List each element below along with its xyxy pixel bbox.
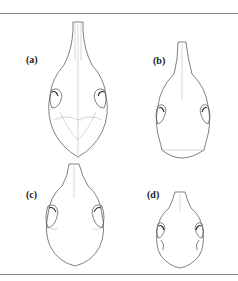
- panel-c-label: (c): [26, 189, 37, 200]
- skull-d-illustration: [153, 190, 207, 270]
- figure-bottom-rule: [0, 274, 238, 275]
- figure-top-rule: [0, 13, 238, 14]
- skull-c-illustration: [44, 162, 106, 268]
- skull-a-illustration: [40, 20, 116, 160]
- skull-b-illustration: [152, 40, 214, 162]
- panel-a-label: (a): [26, 54, 38, 65]
